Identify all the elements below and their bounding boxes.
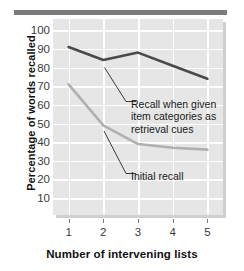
- x-tick-3: 3: [128, 226, 148, 238]
- chart-figure: 100 90 80 70 60 50 40 30 20 10 1 2 3 4 5…: [0, 0, 244, 271]
- x-axis-title: Number of intervening lists: [0, 248, 244, 260]
- x-tick-mark-4: [173, 219, 174, 223]
- annotation-cued-recall: Recall when given item categories as ret…: [131, 98, 235, 135]
- x-tick-mark-1: [69, 219, 70, 223]
- gridline-v-1: [69, 19, 71, 215]
- x-tick-mark-5: [207, 219, 208, 223]
- annotation-initial-recall: Initial recall: [131, 170, 221, 182]
- x-tick-mark-2: [103, 219, 104, 223]
- x-tick-5: 5: [197, 226, 217, 238]
- x-tick-1: 1: [59, 226, 79, 238]
- y-axis-title: Percentage of words recalled: [25, 18, 37, 208]
- x-tick-2: 2: [93, 226, 113, 238]
- gridline-v-2: [103, 19, 105, 215]
- x-tick-4: 4: [163, 226, 183, 238]
- x-tick-mark-3: [138, 219, 139, 223]
